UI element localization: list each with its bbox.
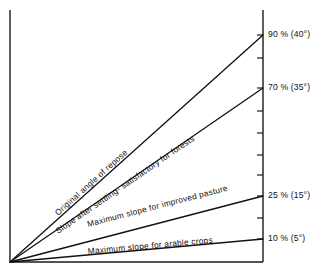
slope-label-forests: Slope after settling- satisfactory for f… — [53, 133, 196, 236]
axis-value-pasture: 25 % (15°) — [268, 190, 310, 200]
slope-line-repose — [10, 35, 263, 262]
axis-value-forests: 70 % (35°) — [268, 82, 310, 92]
right-axis-ticks — [257, 35, 263, 239]
slope-label-arable: Maximum slope for arable crops — [87, 235, 213, 256]
axis-value-arable: 10 % (5°) — [268, 233, 305, 243]
slope-diagram-svg: Original angle of repose Slope after set… — [0, 0, 325, 275]
slope-diagram-figure: Original angle of repose Slope after set… — [0, 0, 325, 275]
axis-value-repose: 90 % (40°) — [268, 29, 310, 39]
